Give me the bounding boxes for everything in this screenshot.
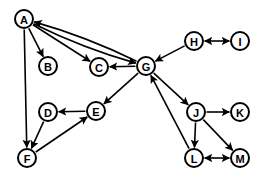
graph-node-b[interactable]: B [39,57,57,75]
graph-node-m[interactable]: M [231,149,249,167]
edge-E-D [59,111,86,112]
edge-G-E [104,73,138,104]
edge-G-C [110,66,136,67]
edge-A-F [24,30,27,148]
edge-H-G [155,46,184,61]
graph-node-a[interactable]: A [15,10,33,28]
graph-node-f[interactable]: F [18,149,36,167]
edge-A-B [29,28,43,56]
node-label-k: K [236,107,244,119]
graph-node-h[interactable]: H [185,32,203,50]
node-label-i: I [238,36,241,48]
graph-svg-canvas: ABCDEFGHIJKLM [0,0,271,184]
edge-G-A [34,22,136,61]
graph-node-i[interactable]: I [231,32,249,50]
graph-node-g[interactable]: G [137,57,155,75]
graph-node-l[interactable]: L [185,149,203,167]
graph-node-d[interactable]: D [39,103,57,121]
node-label-g: G [142,61,151,73]
node-label-f: F [24,153,31,165]
node-label-h: H [190,36,198,48]
node-label-d: D [44,107,52,119]
graph-node-k[interactable]: K [231,103,249,121]
node-label-m: M [235,153,244,165]
graph-node-c[interactable]: C [90,58,108,76]
edge-L-G [151,75,189,148]
edge-D-F [31,122,43,149]
graph-node-e[interactable]: E [87,102,105,120]
node-label-e: E [92,106,99,118]
edge-G-J [154,73,188,105]
node-label-l: L [191,153,198,165]
node-label-a: A [20,14,28,26]
node-label-b: B [44,61,52,73]
edge-J-L [194,123,195,148]
graph-node-j[interactable]: J [187,103,205,121]
nodes-layer: ABCDEFGHIJKLM [15,10,249,167]
graph-diagram: ABCDEFGHIJKLM [0,0,271,184]
node-label-c: C [95,62,103,74]
edge-J-M [203,120,232,151]
node-label-j: J [193,107,199,119]
